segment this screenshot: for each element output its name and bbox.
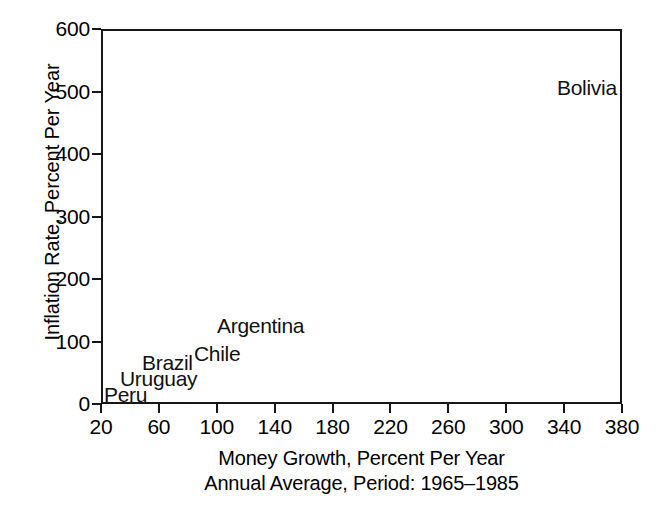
x-tick-mark — [158, 404, 160, 413]
y-tick-label-text: 600 — [4, 18, 90, 39]
scatter-plot-figure: Inflation Rate, Percent Per Year 0100200… — [0, 0, 658, 521]
data-point-label-chile: Chile — [194, 343, 240, 364]
x-tick-mark — [621, 404, 623, 413]
x-tick-mark — [332, 404, 334, 413]
x-tick-mark — [216, 404, 218, 413]
y-tick-label-text: 0 — [4, 393, 90, 414]
plot-area: PeruUruguayBrazilChileArgentinaBolivia — [101, 29, 622, 404]
data-point-label-bolivia: Bolivia — [557, 77, 617, 98]
x-axis-title: Money Growth, Percent Per Year — [101, 446, 622, 471]
y-tick-label: 0 — [0, 393, 90, 414]
y-tick-label: 200 — [0, 268, 90, 289]
y-tick-label-text: 200 — [4, 268, 90, 289]
x-tick-label: 60 — [147, 416, 170, 438]
y-tick-label: 600 — [0, 18, 90, 39]
x-tick-label: 300 — [489, 416, 523, 438]
y-tick-label: 300 — [0, 206, 90, 227]
x-tick-label: 20 — [90, 416, 113, 438]
x-tick-mark — [274, 404, 276, 413]
y-tick-label-text: 100 — [4, 331, 90, 352]
x-tick-mark — [389, 404, 391, 413]
y-tick-mark — [92, 28, 101, 30]
y-tick-label-text: 300 — [4, 206, 90, 227]
x-tick-mark — [563, 404, 565, 413]
data-point-label-brazil: Brazil — [142, 352, 193, 373]
x-tick-label: 220 — [373, 416, 407, 438]
x-tick-label: 140 — [257, 416, 291, 438]
x-tick-mark — [505, 404, 507, 413]
x-tick-mark — [447, 404, 449, 413]
y-tick-label: 100 — [0, 331, 90, 352]
x-tick-label: 340 — [547, 416, 581, 438]
y-tick-mark — [92, 91, 101, 93]
y-tick-label: 400 — [0, 143, 90, 164]
y-tick-label-text: 400 — [4, 143, 90, 164]
x-tick-label: 180 — [315, 416, 349, 438]
x-tick-label: 380 — [605, 416, 639, 438]
x-tick-mark — [100, 404, 102, 413]
y-tick-label: 500 — [0, 81, 90, 102]
x-tick-label: 100 — [200, 416, 234, 438]
y-tick-mark — [92, 278, 101, 280]
y-tick-label-text: 500 — [4, 81, 90, 102]
x-axis-subtitle: Annual Average, Period: 1965–1985 — [101, 471, 622, 496]
x-tick-label: 260 — [431, 416, 465, 438]
data-point-label-argentina: Argentina — [217, 315, 304, 336]
y-tick-mark — [92, 153, 101, 155]
y-tick-mark — [92, 341, 101, 343]
x-axis-title-block: Money Growth, Percent Per Year Annual Av… — [101, 446, 622, 496]
y-tick-mark — [92, 216, 101, 218]
